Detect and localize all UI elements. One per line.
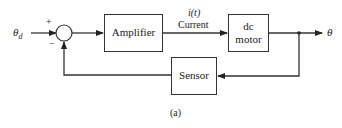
input-subscript: d: [18, 32, 22, 41]
sensor-block: Sensor: [171, 57, 217, 95]
figure-caption: (a): [170, 108, 181, 118]
amplifier-label: Amplifier: [112, 26, 155, 39]
amplifier-block: Amplifier: [104, 14, 163, 52]
motor-label-line1: dc: [243, 20, 253, 33]
summing-junction: [56, 25, 72, 41]
sensor-label: Sensor: [179, 69, 209, 82]
minus-sign: −: [49, 39, 55, 49]
current-label: Current: [178, 20, 209, 30]
output-label: θ: [327, 27, 332, 38]
motor-block: dc motor: [228, 14, 269, 52]
current-variable: i(t): [188, 8, 200, 18]
plus-sign: +: [46, 17, 52, 27]
input-label: θd: [13, 27, 22, 41]
motor-label-line2: motor: [235, 33, 261, 46]
